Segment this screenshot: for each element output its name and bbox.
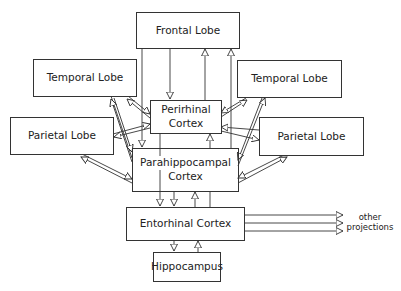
parahippocampal-label-line2: Cortex (168, 170, 203, 184)
frontal-lobe-node: Frontal Lobe (136, 12, 240, 49)
parietal-lobe-left-label: Parietal Lobe (28, 129, 96, 143)
perirhinal-label-line2: Cortex (169, 117, 204, 131)
frontal-lobe-label: Frontal Lobe (156, 24, 220, 38)
perirhinal-label-line1: Perirhinal (161, 103, 210, 117)
temporal-lobe-right-label: Temporal Lobe (251, 72, 328, 86)
parietal-lobe-right-node: Parietal Lobe (259, 117, 364, 156)
parahippocampal-cortex-node: Parahippocampal Cortex (132, 148, 239, 192)
other-projections-label: other projections (342, 212, 398, 232)
hippocampus-label: Hippocampus (151, 260, 223, 274)
temporal-lobe-left-node: Temporal Lobe (33, 59, 137, 97)
other-projections-line2: projections (342, 222, 398, 232)
parietal-lobe-right-label: Parietal Lobe (277, 130, 345, 144)
parahippocampal-label-line1: Parahippocampal (140, 156, 231, 170)
hippocampus-node: Hippocampus (153, 252, 221, 282)
entorhinal-cortex-node: Entorhinal Cortex (126, 207, 245, 241)
parietal-lobe-left-node: Parietal Lobe (10, 117, 114, 155)
entorhinal-label: Entorhinal Cortex (140, 217, 232, 231)
temporal-lobe-left-label: Temporal Lobe (47, 71, 124, 85)
temporal-lobe-right-node: Temporal Lobe (237, 60, 342, 98)
perirhinal-cortex-node: Perirhinal Cortex (150, 100, 222, 134)
other-projections-line1: other (342, 212, 398, 222)
